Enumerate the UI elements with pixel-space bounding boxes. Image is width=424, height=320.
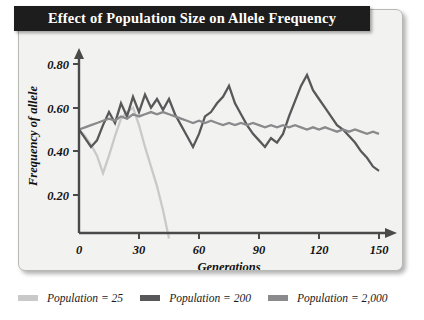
- x-tick-label: 90: [253, 243, 266, 257]
- axis-labels-layer: 0.200.400.600.800306090120150Generations…: [26, 58, 389, 272]
- chart-title-bar: Effect of Population Size on Allele Freq…: [14, 6, 370, 31]
- data-series-layer: [79, 75, 379, 239]
- y-tick-label: 0.20: [47, 189, 70, 203]
- legend-swatch-icon: [18, 295, 38, 301]
- axes-layer: [73, 48, 397, 239]
- chart-legend: Population = 25Population = 200Populatio…: [18, 288, 408, 308]
- x-tick-label: 0: [76, 243, 83, 257]
- x-tick-label: 60: [193, 243, 206, 257]
- series-line-0: [79, 108, 169, 239]
- chart-figure: 0.200.400.600.800306090120150Generations…: [0, 0, 424, 320]
- legend-entry[interactable]: Population = 2,000: [268, 292, 388, 304]
- legend-label: Population = 25: [47, 292, 123, 304]
- legend-label: Population = 200: [169, 292, 251, 304]
- legend-swatch-icon: [268, 295, 288, 301]
- y-axis-title: Frequency of allele: [26, 86, 40, 187]
- plot-area: 0.200.400.600.800306090120150Generations…: [19, 10, 403, 271]
- x-tick-label: 120: [310, 243, 330, 257]
- x-tick-label: 30: [132, 243, 146, 257]
- y-tick-label: 0.60: [47, 102, 70, 116]
- chart-title: Effect of Population Size on Allele Freq…: [48, 10, 336, 27]
- legend-label: Population = 2,000: [297, 292, 388, 304]
- legend-entry[interactable]: Population = 200: [140, 292, 251, 304]
- y-tick-label: 0.40: [47, 145, 70, 159]
- y-tick-label: 0.80: [47, 58, 70, 72]
- legend-entry[interactable]: Population = 25: [18, 292, 123, 304]
- x-axis-title: Generations: [197, 260, 260, 271]
- legend-swatch-icon: [140, 295, 160, 301]
- x-tick-label: 150: [370, 243, 390, 257]
- chart-panel: 0.200.400.600.800306090120150Generations…: [18, 9, 403, 271]
